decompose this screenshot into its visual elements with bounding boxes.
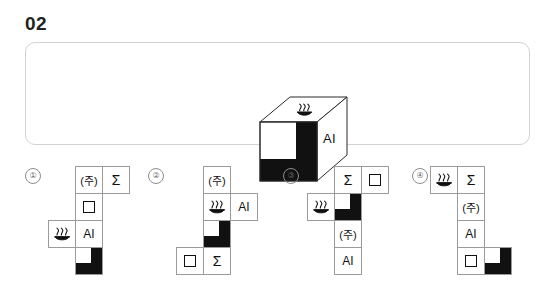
net-cell-text: (주) (334, 220, 362, 248)
net-cell-label: (주) (339, 226, 356, 242)
net-cell-label: (주) (208, 172, 225, 188)
answer-options: ①(주)ΣAI②(주)AIΣ③Σ(주)AI④Σ(주)AI (0, 160, 557, 292)
net-cell-label: AI (238, 200, 249, 214)
net-cell-text: AI (457, 220, 485, 248)
stimulus-panel: AI (25, 42, 530, 145)
net-cell-hot-spring (203, 193, 231, 221)
net-cell-l-shape (203, 220, 231, 248)
net-cell-l-shape (75, 247, 103, 275)
net-cell-square (176, 247, 204, 275)
hot-spring-icon (313, 200, 330, 215)
net-cell-text: Σ (457, 166, 485, 194)
net-cell-text: (주) (75, 166, 103, 194)
hollow-square-icon (369, 174, 381, 186)
net-cell-square (457, 247, 485, 275)
net-cell-label: Σ (467, 172, 476, 188)
page-title: 02 (25, 14, 47, 33)
net-cell-label: (주) (80, 172, 97, 188)
net-cell-label: (주) (462, 199, 479, 215)
net-cell-square (75, 193, 103, 221)
cube-side-label: AI (323, 131, 336, 146)
net-cell-hot-spring (430, 166, 458, 194)
net-cell-label: Σ (213, 253, 222, 269)
net-cell-l-shape (334, 193, 362, 221)
net-cell-label: Σ (112, 172, 121, 188)
option-number-2: ② (148, 168, 164, 184)
black-l-shape-icon (335, 194, 361, 220)
net-cell-text: AI (230, 193, 258, 221)
net-cell-text: Σ (102, 166, 130, 194)
net-cell-hot-spring (48, 220, 76, 248)
option-number-1: ① (25, 168, 41, 184)
net-cell-label: AI (465, 227, 476, 241)
hollow-square-icon (83, 201, 95, 213)
hot-spring-icon (209, 200, 226, 215)
net-cell-text: Σ (203, 247, 231, 275)
hot-spring-icon (436, 173, 453, 188)
net-cell-text: (주) (203, 166, 231, 194)
black-l-shape-icon (485, 248, 511, 274)
option-number-3: ③ (283, 168, 299, 184)
hollow-square-icon (465, 255, 477, 267)
net-cell-label: AI (342, 254, 353, 268)
net-cell-label: Σ (344, 172, 353, 188)
hollow-square-icon (184, 255, 196, 267)
black-l-shape-icon (204, 221, 230, 247)
net-cell-label: AI (83, 227, 94, 241)
net-cell-hot-spring (307, 193, 335, 221)
net-cell-text: AI (75, 220, 103, 248)
black-l-shape-icon (76, 248, 102, 274)
net-cell-text: Σ (334, 166, 362, 194)
net-cell-square (361, 166, 389, 194)
net-cell-text: AI (334, 247, 362, 275)
hot-spring-icon (54, 227, 71, 242)
net-cell-l-shape (484, 247, 512, 275)
option-number-4: ④ (412, 168, 428, 184)
net-cell-text: (주) (457, 193, 485, 221)
